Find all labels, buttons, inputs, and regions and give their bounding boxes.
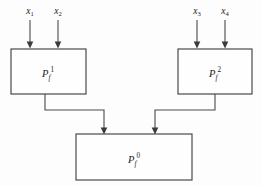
arrowhead-pf1-out-icon: [101, 128, 108, 135]
input-label-x1: x1: [25, 6, 34, 17]
connector-pf2-to-pf0: [152, 94, 215, 135]
block-pf2[interactable]: Pf2: [178, 49, 252, 94]
input-arrow-x2: [55, 20, 62, 49]
block-pf2-label-sup: 2: [217, 66, 221, 74]
connector-pf2-path: [155, 94, 215, 129]
connector-pf1-path: [45, 94, 104, 129]
input-label-x2-sub: 2: [58, 10, 61, 17]
connector-pf1-to-pf0: [45, 94, 107, 135]
input-label-x3-sub: 3: [197, 10, 201, 17]
block-pf0-label-sup: 0: [136, 152, 140, 160]
input-label-x1-sub: 1: [30, 10, 33, 17]
arrowhead-x1-icon: [27, 42, 34, 49]
arrowhead-pf2-out-icon: [152, 128, 159, 135]
input-arrow-x4: [222, 20, 229, 49]
input-label-x3: x3: [192, 6, 201, 17]
arrowhead-x2-icon: [55, 42, 62, 49]
block-pf1-rect[interactable]: [11, 49, 86, 94]
arrowhead-x3-icon: [194, 42, 201, 49]
block-pf0[interactable]: Pf0: [76, 134, 192, 180]
input-label-x2: x2: [53, 6, 62, 17]
input-label-x4-sub: 4: [225, 10, 229, 17]
input-arrow-x1: [27, 20, 34, 49]
arrowhead-x4-icon: [222, 42, 229, 49]
block-pf1-label-sup: 1: [50, 66, 54, 74]
input-arrow-x3: [194, 20, 201, 49]
block-pf1[interactable]: Pf1: [11, 49, 86, 94]
input-label-x4: x4: [220, 6, 229, 17]
block-diagram-svg: x1 x2 x3 x4 Pf1 Pf2 Pf0: [0, 0, 261, 186]
diagram-canvas: x1 x2 x3 x4 Pf1 Pf2 Pf0: [0, 0, 261, 186]
